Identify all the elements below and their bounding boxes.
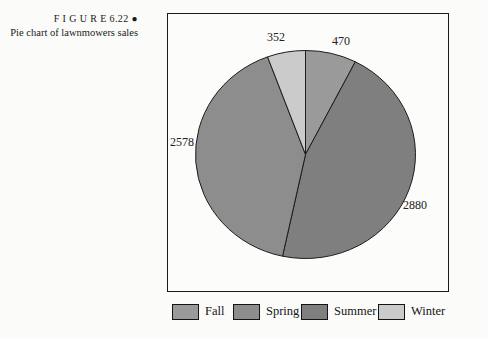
legend-item-summer: Summer bbox=[301, 303, 376, 320]
figure-caption: F I G U R E 6.22 ● Pie chart of lawnmowe… bbox=[10, 12, 138, 40]
slice-value-summer: 2880 bbox=[403, 198, 427, 213]
figure-label: F I G U R E 6.22 ● bbox=[10, 12, 138, 26]
legend-label-summer: Summer bbox=[334, 304, 376, 319]
figure-title: Pie chart of lawnmowers sales bbox=[10, 26, 138, 40]
legend-swatch-winter bbox=[378, 304, 405, 320]
chart-frame: 352 470 2578 2880 bbox=[167, 13, 449, 292]
slice-value-winter: 352 bbox=[267, 30, 285, 45]
legend-label-winter: Winter bbox=[411, 304, 445, 319]
legend-item-spring: Spring bbox=[233, 303, 299, 320]
legend-swatch-summer bbox=[301, 304, 328, 320]
legend-item-fall: Fall bbox=[172, 303, 224, 320]
slice-value-fall: 470 bbox=[332, 34, 350, 49]
legend-item-winter: Winter bbox=[378, 303, 445, 320]
slice-value-spring: 2578 bbox=[170, 135, 194, 150]
page: F I G U R E 6.22 ● Pie chart of lawnmowe… bbox=[0, 0, 488, 339]
legend-label-spring: Spring bbox=[266, 304, 299, 319]
legend-label-fall: Fall bbox=[205, 304, 224, 319]
legend-swatch-spring bbox=[233, 304, 260, 320]
legend-swatch-fall bbox=[172, 304, 199, 320]
pie-chart bbox=[168, 14, 447, 290]
